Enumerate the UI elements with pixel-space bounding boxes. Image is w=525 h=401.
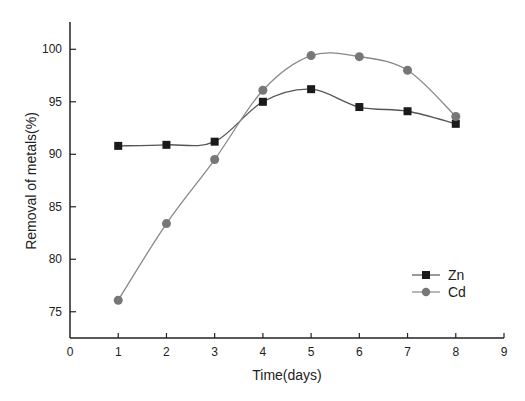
circle-marker-icon	[422, 288, 430, 296]
legend-item-zn: Zn	[412, 267, 464, 283]
square-marker-icon	[422, 271, 430, 279]
square-marker-icon	[404, 107, 412, 115]
square-marker-icon	[114, 142, 122, 150]
x-tick-label: 1	[115, 345, 122, 359]
circle-marker-icon	[307, 51, 316, 60]
series-line	[118, 89, 456, 146]
legend-label-zn: Zn	[448, 267, 464, 283]
x-tick-label: 0	[67, 345, 74, 359]
x-tick-label: 9	[501, 345, 508, 359]
y-axis-title: Removal of metals(%)	[23, 112, 39, 250]
square-marker-icon	[162, 141, 170, 149]
square-marker-icon	[259, 98, 267, 106]
legend: Zn Cd	[412, 267, 466, 300]
legend-label-cd: Cd	[448, 284, 466, 300]
axes: 01234567897580859095100	[42, 22, 508, 359]
circle-marker-icon	[451, 112, 460, 121]
series-zn	[114, 85, 460, 150]
y-tick-label: 75	[49, 305, 63, 319]
y-tick-label: 90	[49, 147, 63, 161]
x-axis-title: Time(days)	[252, 367, 322, 383]
square-marker-icon	[452, 120, 460, 128]
line-chart: 01234567897580859095100 Time(days) Remov…	[0, 0, 525, 401]
circle-marker-icon	[162, 219, 171, 228]
y-tick-label: 95	[49, 95, 63, 109]
x-tick-label: 8	[452, 345, 459, 359]
x-tick-label: 6	[356, 345, 363, 359]
y-tick-label: 85	[49, 200, 63, 214]
x-tick-label: 4	[260, 345, 267, 359]
plot-area	[114, 51, 461, 305]
square-marker-icon	[211, 138, 219, 146]
x-tick-label: 5	[308, 345, 315, 359]
square-marker-icon	[307, 85, 315, 93]
circle-marker-icon	[355, 52, 364, 61]
x-tick-label: 2	[163, 345, 170, 359]
x-tick-label: 7	[404, 345, 411, 359]
circle-marker-icon	[403, 66, 412, 75]
circle-marker-icon	[210, 155, 219, 164]
series-cd	[114, 51, 461, 305]
y-tick-label: 100	[42, 42, 62, 56]
series-line	[118, 53, 456, 300]
y-tick-label: 80	[49, 252, 63, 266]
circle-marker-icon	[258, 86, 267, 95]
square-marker-icon	[355, 103, 363, 111]
circle-marker-icon	[114, 296, 123, 305]
x-tick-label: 3	[211, 345, 218, 359]
legend-item-cd: Cd	[412, 284, 466, 300]
